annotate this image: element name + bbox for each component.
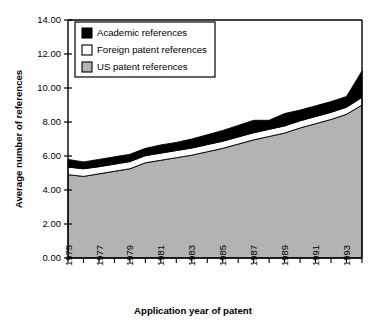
- x-tick-label: 1989: [279, 245, 290, 266]
- x-tick-label: 1977: [94, 245, 105, 266]
- y-tick-label: 8.00: [43, 116, 62, 127]
- x-tick-label: 1979: [124, 245, 135, 266]
- y-tick-label: 10.00: [37, 82, 61, 93]
- chart-figure: 0.002.004.006.008.0010.0012.0014.00 1975…: [0, 0, 386, 322]
- chart-legend: Academic referencesForeign patent refere…: [75, 22, 215, 77]
- y-axis-ticks: 0.002.004.006.008.0010.0012.0014.00: [37, 14, 72, 263]
- x-tick-label: 1987: [248, 245, 259, 266]
- y-tick-label: 4.00: [43, 184, 62, 195]
- y-tick-label: 12.00: [37, 48, 61, 59]
- legend-swatch: [82, 28, 92, 38]
- legend-label: Foreign patent references: [97, 44, 207, 55]
- x-axis-title: Application year of patent: [134, 305, 253, 316]
- legend-swatch: [82, 62, 92, 72]
- y-tick-label: 2.00: [43, 218, 62, 229]
- y-tick-label: 14.00: [37, 14, 61, 25]
- x-tick-label: 1981: [155, 245, 166, 266]
- x-tick-label: 1983: [186, 245, 197, 266]
- y-tick-label: 6.00: [43, 150, 62, 161]
- references-area-chart: 0.002.004.006.008.0010.0012.0014.00 1975…: [0, 0, 386, 322]
- legend-label: Academic references: [97, 27, 187, 38]
- legend-label: US patent references: [97, 61, 188, 72]
- x-tick-label: 1975: [63, 245, 74, 266]
- legend-swatch: [82, 45, 92, 55]
- x-tick-label: 1991: [310, 245, 321, 266]
- x-tick-label: 1993: [341, 245, 352, 266]
- x-tick-label: 1985: [217, 245, 228, 266]
- y-axis-title: Average number of references: [13, 70, 24, 208]
- y-tick-label: 0.00: [43, 252, 62, 263]
